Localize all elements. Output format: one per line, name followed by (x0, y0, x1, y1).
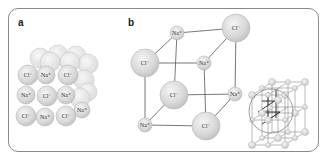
ion-label: Na⁺ (77, 107, 87, 113)
ion-sphere: Na⁺ (170, 26, 184, 40)
ion-sphere: Cl⁻ (37, 86, 57, 106)
ion-sphere: Na⁺ (36, 108, 54, 126)
ion-label: Na⁺ (230, 91, 240, 97)
ion-label: Cl⁻ (24, 72, 33, 78)
figure-canvas: Cl⁻ Na⁺ Cl⁻ Na⁺ Na⁺ Cl⁻ Na⁺ Cl⁻ Na⁺ Cl⁻ … (0, 0, 328, 160)
ion-sphere: Na⁺ (37, 66, 55, 84)
ion-label: Cl⁻ (22, 113, 31, 119)
ion-label: Cl⁻ (141, 60, 150, 66)
ion-sphere: Na⁺ (17, 86, 35, 104)
ion-label: Na⁺ (61, 92, 71, 98)
ion-sphere: Cl⁻ (192, 112, 220, 140)
ion-label: Na⁺ (21, 92, 31, 98)
ion-label: Cl⁻ (202, 123, 211, 129)
ion-label: Cl⁻ (43, 93, 52, 99)
panel-b-ions: Na⁺ Cl⁻ Cl⁻ Na⁺ Cl⁻ Na⁺ Na⁺ Cl⁻ (131, 14, 250, 140)
panel-b-bonds (145, 28, 236, 126)
ion-sphere: Cl⁻ (58, 65, 78, 85)
ion-sphere: Cl⁻ (222, 14, 250, 42)
ion-sphere: Na⁺ (197, 56, 211, 70)
ion-label: Na⁺ (40, 114, 50, 120)
ion-label: Na⁺ (172, 30, 182, 36)
ion-sphere: Cl⁻ (131, 49, 159, 77)
ion-sphere: Cl⁻ (160, 81, 188, 109)
ion-sphere: Na⁺ (138, 118, 152, 132)
ion-label: Cl⁻ (64, 72, 73, 78)
ion-label: Cl⁻ (232, 25, 241, 31)
ion-label: Cl⁻ (62, 113, 71, 119)
ion-label: Na⁺ (140, 122, 150, 128)
ion-label: Na⁺ (41, 72, 51, 78)
lattice-inset (249, 79, 309, 149)
ion-sphere: Cl⁻ (16, 106, 36, 126)
ion-sphere: Cl⁻ (56, 106, 76, 126)
ion-sphere: Na⁺ (74, 102, 90, 118)
ion-label: Na⁺ (199, 60, 209, 66)
ion-sphere: Cl⁻ (18, 65, 38, 85)
ion-sphere: Na⁺ (228, 87, 242, 101)
ion-label: Cl⁻ (170, 92, 179, 98)
ion-sphere: Na⁺ (57, 86, 75, 104)
highlight-circle (249, 89, 293, 133)
